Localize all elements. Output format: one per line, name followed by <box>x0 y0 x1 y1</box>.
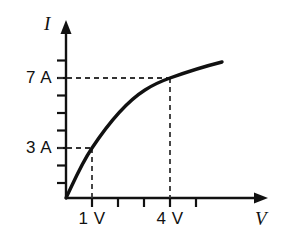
x-axis-title: V <box>255 209 267 228</box>
x-tick-label-4v: 4 V <box>148 210 192 227</box>
y-tick-label-3a: 3 A <box>10 139 52 156</box>
x-axis-arrowhead <box>254 193 268 204</box>
plot-canvas <box>0 0 284 244</box>
x-axis-ticks <box>92 198 196 207</box>
y-tick-label-7a: 7 A <box>10 69 52 86</box>
iv-curve <box>66 62 222 198</box>
y-axis-arrowhead <box>61 20 72 34</box>
y-axis-title: I <box>44 14 50 33</box>
iv-characteristic-figure: I V 7 A 3 A 1 V 4 V <box>0 0 284 244</box>
x-tick-label-1v: 1 V <box>70 210 114 227</box>
